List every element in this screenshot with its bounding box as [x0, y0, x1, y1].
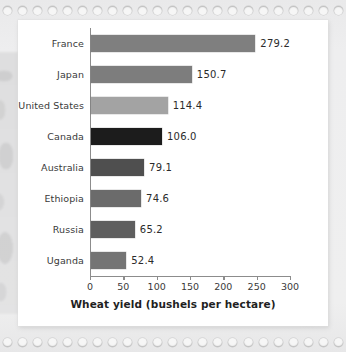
x-axis-tick: [290, 276, 291, 280]
perforation-hole: [153, 338, 162, 347]
perforation-hole: [108, 338, 117, 347]
perforation-row-top: [0, 3, 346, 18]
bar-row: 114.4: [90, 90, 290, 121]
x-axis-tick: [123, 276, 124, 280]
bar: [91, 66, 191, 83]
bar: [91, 35, 255, 52]
perforation-hole: [63, 6, 72, 15]
perforation-hole: [334, 338, 343, 347]
bar-series: 279.2150.7114.4106.079.174.665.252.4: [90, 28, 290, 276]
bar-value-label: 52.4: [131, 255, 154, 266]
perforation-hole: [48, 6, 57, 15]
x-axis-tick-label: 250: [248, 281, 266, 292]
chart-card: FranceJapanUnited StatesCanadaAustraliaE…: [18, 20, 328, 326]
perforation-hole: [213, 338, 222, 347]
perforation-hole: [183, 338, 192, 347]
bar: [91, 190, 141, 207]
perforation-hole: [228, 6, 237, 15]
x-axis-tick-label: 100: [148, 281, 166, 292]
perforation-hole: [228, 338, 237, 347]
perforation-hole: [168, 6, 177, 15]
perforation-hole: [153, 6, 162, 15]
perforation-hole: [259, 6, 268, 15]
x-axis-tick-label: 200: [214, 281, 232, 292]
category-label: United States: [18, 90, 88, 121]
perforation-hole: [213, 6, 222, 15]
perforation-hole: [304, 338, 313, 347]
perforation-hole: [334, 6, 343, 15]
x-axis-tick-label: 300: [281, 281, 299, 292]
perforation-hole: [138, 338, 147, 347]
x-axis-tick: [90, 276, 91, 280]
perforation-hole: [198, 6, 207, 15]
perforation-hole: [168, 338, 177, 347]
perforation-hole: [198, 338, 207, 347]
bar-row: 52.4: [90, 245, 290, 276]
x-axis-tick: [190, 276, 191, 280]
perforation-hole: [33, 6, 42, 15]
bar-row: 79.1: [90, 152, 290, 183]
x-axis-tick: [157, 276, 158, 280]
bar: [91, 159, 144, 176]
perforation-hole: [289, 6, 298, 15]
category-label: Australia: [18, 152, 88, 183]
perforation-hole: [93, 6, 102, 15]
perforation-hole: [3, 6, 12, 15]
perforation-hole: [78, 6, 87, 15]
perforation-hole: [289, 338, 298, 347]
perforation-hole: [78, 338, 87, 347]
bar-row: 106.0: [90, 121, 290, 152]
bar: [91, 252, 126, 269]
bar: [91, 221, 134, 238]
perforation-hole: [274, 6, 283, 15]
bar-value-label: 150.7: [197, 69, 227, 80]
x-axis-tick: [223, 276, 224, 280]
category-label: Japan: [18, 59, 88, 90]
x-axis-tick: [257, 276, 258, 280]
bar: [91, 128, 162, 145]
category-label: Ethiopia: [18, 183, 88, 214]
perforation-hole: [18, 338, 27, 347]
bar: [91, 97, 167, 114]
perforation-hole: [244, 6, 253, 15]
perforation-hole: [319, 338, 328, 347]
x-axis-ticks: 050100150200250300: [90, 276, 290, 294]
bar-value-label: 79.1: [149, 162, 172, 173]
bar-value-label: 74.6: [146, 193, 169, 204]
x-axis-tick-label: 150: [181, 281, 199, 292]
perforation-hole: [259, 338, 268, 347]
perforation-hole: [304, 6, 313, 15]
perforation-hole: [319, 6, 328, 15]
plot-area: 279.2150.7114.4106.079.174.665.252.4: [90, 28, 290, 276]
perforation-hole: [138, 6, 147, 15]
x-axis-tick-label: 0: [87, 281, 93, 292]
perforation-hole: [33, 338, 42, 347]
bar-value-label: 106.0: [167, 131, 197, 142]
bar-row: 150.7: [90, 59, 290, 90]
bar-row: 65.2: [90, 214, 290, 245]
perforation-hole: [274, 338, 283, 347]
perforation-row-bottom: [0, 335, 346, 350]
bar-row: 279.2: [90, 28, 290, 59]
category-label: France: [18, 28, 88, 59]
category-label: Canada: [18, 121, 88, 152]
bar-value-label: 279.2: [260, 38, 290, 49]
scanned-page-background: FranceJapanUnited StatesCanadaAustraliaE…: [0, 0, 346, 352]
perforation-hole: [183, 6, 192, 15]
bar-value-label: 114.4: [173, 100, 203, 111]
category-axis-labels: FranceJapanUnited StatesCanadaAustraliaE…: [18, 28, 88, 276]
category-label: Uganda: [18, 245, 88, 276]
bar-chart: FranceJapanUnited StatesCanadaAustraliaE…: [18, 20, 328, 326]
perforation-hole: [48, 338, 57, 347]
perforation-hole: [123, 6, 132, 15]
perforation-hole: [108, 6, 117, 15]
bar-value-label: 65.2: [140, 224, 163, 235]
perforation-hole: [18, 6, 27, 15]
perforation-hole: [244, 338, 253, 347]
perforation-hole: [3, 338, 12, 347]
perforation-hole: [63, 338, 72, 347]
x-axis-tick-label: 50: [117, 281, 129, 292]
perforation-hole: [93, 338, 102, 347]
perforation-hole: [123, 338, 132, 347]
category-label: Russia: [18, 214, 88, 245]
